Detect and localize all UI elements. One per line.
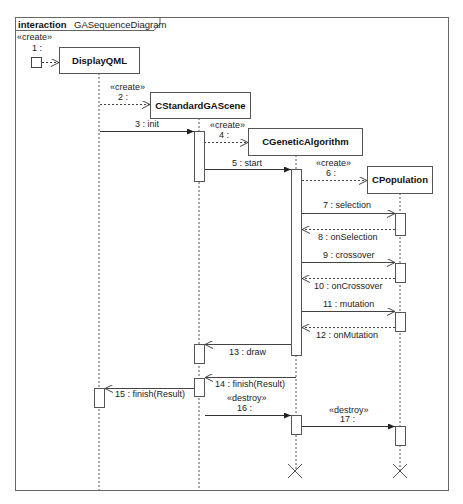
message-label: 12 : onMutation (316, 330, 378, 340)
lifeline-head-cstandardgascene[interactable]: CStandardGAScene (151, 93, 251, 119)
message-14[interactable]: 14 : finish(Result) (205, 378, 296, 390)
activation-pop-mutation (396, 313, 406, 332)
message-10[interactable]: 10 : onCrossover (302, 279, 395, 292)
activation-scene-draw (195, 345, 205, 364)
activation-scene-init (195, 132, 205, 182)
message-15[interactable]: 15 : finish(Result) (105, 389, 194, 400)
message-label: 5 : start (232, 158, 263, 168)
activation-ga-destroy (292, 416, 302, 435)
lifeline-head-cgeneticalgorithm[interactable]: CGeneticAlgorithm (249, 129, 363, 156)
frame-border (16, 18, 449, 491)
message-stereotype: «destroy» (227, 393, 267, 403)
message-label: 4 : (219, 130, 229, 140)
sequence-diagram: interaction GASequenceDiagram DisplayQML… (0, 0, 463, 504)
message-label: 2 : (118, 92, 128, 102)
message-label: 10 : onCrossover (314, 281, 383, 291)
frame-keyword: interaction (18, 19, 67, 30)
activation-ga-start (292, 170, 302, 356)
activation-display-finish (95, 389, 105, 408)
message-label: 16 : (237, 403, 252, 413)
activation-pop-selection (396, 214, 406, 236)
message-label: 13 : draw (229, 347, 267, 357)
message-label: 14 : finish(Result) (215, 379, 285, 389)
lifeline-name: DisplayQML (72, 55, 127, 66)
activation-scene-finish (195, 379, 205, 397)
message-stereotype: «create» (316, 158, 351, 168)
message-stereotype: «create» (210, 120, 245, 130)
activation-pop-destroy (396, 427, 406, 446)
interaction-frame: interaction GASequenceDiagram (16, 14, 449, 491)
message-label: 7 : selection (323, 200, 371, 210)
message-label: 15 : finish(Result) (115, 389, 185, 399)
message-label: 6 : (326, 168, 336, 178)
lifeline-name: CPopulation (372, 174, 428, 185)
message-label: 8 : onSelection (318, 232, 378, 242)
frame-name: GASequenceDiagram (74, 19, 166, 30)
message-label: 17 : (340, 414, 355, 424)
lifeline-name: CGeneticAlgorithm (262, 136, 349, 147)
lifeline-name: CStandardGAScene (155, 100, 245, 111)
message-label: 1 : (32, 43, 42, 53)
message-stereotype: «create» (110, 82, 145, 92)
message-label: 11 : mutation (323, 299, 374, 309)
message-label: 9 : crossover (323, 250, 375, 260)
lifeline-head-displayqml[interactable]: DisplayQML (60, 48, 140, 74)
found-message-start-icon (32, 58, 42, 68)
frame-title: interaction GASequenceDiagram (18, 14, 167, 31)
activation-pop-crossover (396, 264, 406, 283)
message-stereotype: «create» (17, 32, 52, 42)
message-label: 3 : init (135, 119, 160, 129)
lifeline-head-cpopulation[interactable]: CPopulation (368, 167, 433, 194)
